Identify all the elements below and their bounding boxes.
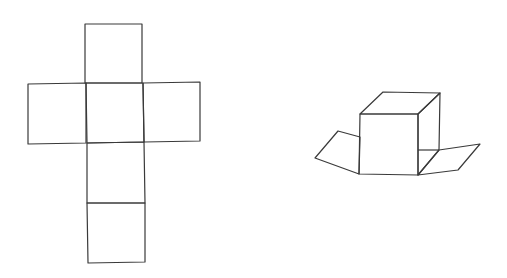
net-face-center xyxy=(86,83,144,143)
diagram-canvas xyxy=(0,0,507,278)
cube-face-right-flap xyxy=(418,144,480,175)
net-face-left xyxy=(28,83,86,144)
cube-face-front xyxy=(359,114,418,175)
net-face-bottom xyxy=(87,203,145,263)
cube-face-top xyxy=(360,92,440,114)
cube-net xyxy=(28,24,200,263)
folded-cube xyxy=(315,92,480,175)
net-face-top xyxy=(85,24,142,83)
cube-face-left-flap xyxy=(315,131,360,174)
net-face-below-center xyxy=(87,142,145,203)
net-face-right xyxy=(143,82,200,142)
